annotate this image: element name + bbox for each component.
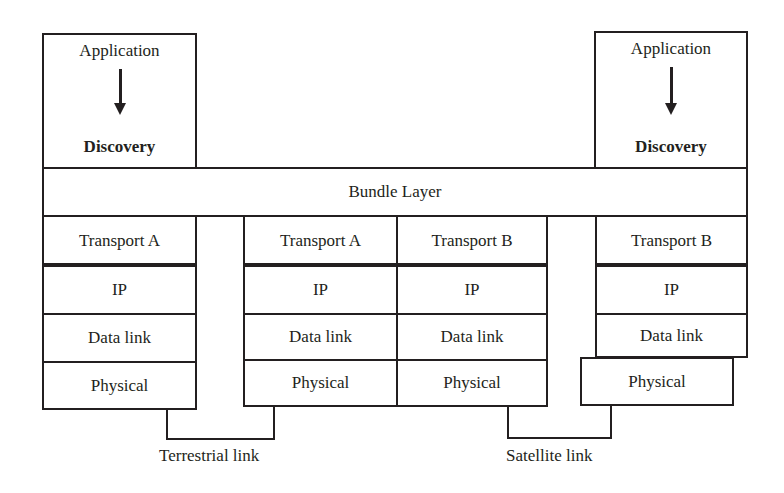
right-host-physical-layer: Physical: [580, 357, 734, 406]
right-down-arrow-shaft: [670, 67, 673, 105]
layer-transport: Transport A: [44, 217, 195, 264]
layer-ip-b: IP: [398, 267, 546, 313]
right-application-box: Application Discovery: [594, 31, 748, 169]
left-discovery-label: Discovery: [44, 137, 195, 157]
left-down-arrow-icon: [114, 103, 126, 115]
layer-data-link-b: Data link: [398, 315, 546, 359]
stack-left-host: Transport A IP Data link Physical: [42, 215, 197, 410]
stack-right-host: Transport B IP Data link: [595, 215, 748, 358]
terrestrial-link-right-leg: [273, 405, 275, 440]
layer-physical-a: Physical: [245, 361, 396, 405]
satellite-link-left-leg: [507, 405, 509, 439]
satellite-link-bottom: [507, 437, 612, 439]
left-application-box: Application Discovery: [42, 33, 197, 169]
layer-transport: Transport B: [597, 217, 746, 264]
divider: [245, 313, 546, 315]
layer-transport-a: Transport A: [245, 217, 396, 264]
layer-ip-a: IP: [245, 267, 396, 313]
bundle-layer-label: Bundle Layer: [349, 182, 442, 202]
layer-transport-b: Transport B: [398, 217, 546, 264]
right-discovery-label: Discovery: [596, 137, 746, 157]
divider: [245, 359, 546, 361]
layer-data-link-a: Data link: [245, 315, 396, 359]
left-down-arrow-shaft: [119, 69, 122, 105]
right-down-arrow-icon: [665, 103, 677, 115]
satellite-link-label: Satellite link: [506, 446, 592, 466]
layer-physical-b: Physical: [398, 361, 546, 405]
layer-data-link: Data link: [44, 315, 195, 361]
layer-ip: IP: [44, 267, 195, 313]
right-application-label: Application: [596, 39, 746, 59]
bundle-layer: Bundle Layer: [42, 167, 748, 217]
left-application-label: Application: [44, 41, 195, 61]
layer-physical: Physical: [44, 363, 195, 408]
thick-divider: [245, 263, 546, 267]
satellite-link-right-leg: [610, 404, 612, 439]
stack-router: Transport A IP Data link Physical Transp…: [243, 215, 548, 407]
layer-data-link: Data link: [597, 315, 746, 356]
layer-ip: IP: [597, 267, 746, 313]
terrestrial-link-left-leg: [166, 408, 168, 440]
terrestrial-link-bottom: [166, 438, 275, 440]
terrestrial-link-label: Terrestrial link: [159, 446, 259, 466]
